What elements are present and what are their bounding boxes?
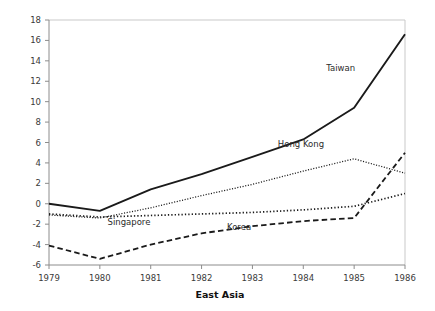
y-tick-label: 4	[36, 158, 41, 168]
series-label-korea: Korea	[227, 222, 251, 232]
y-tick-label: 12	[30, 76, 41, 86]
series-label-singapore: Singapore	[107, 217, 150, 227]
y-tick-label: 2	[36, 178, 41, 188]
x-tick-label: 1982	[191, 273, 213, 283]
series-line-taiwan	[49, 34, 405, 211]
y-tick-label: 6	[36, 138, 41, 148]
y-tick-label: 14	[30, 56, 41, 66]
y-tick-label: -6	[33, 260, 41, 270]
series-label-group: TaiwanHong KongSingaporeKorea	[107, 63, 355, 232]
chart-container: 181614121086420-2-4-6 197919801981198219…	[0, 0, 435, 311]
y-axis-ticks: 181614121086420-2-4-6	[30, 15, 49, 270]
y-tick-label: 18	[30, 15, 41, 25]
line-chart: 181614121086420-2-4-6 197919801981198219…	[0, 0, 435, 311]
x-tick-label: 1984	[292, 273, 314, 283]
series-label-taiwan: Taiwan	[325, 63, 355, 73]
x-axis-title: East Asia	[195, 289, 244, 300]
x-tick-label: 1983	[242, 273, 264, 283]
y-tick-label: 0	[36, 199, 41, 209]
y-tick-label: -2	[33, 219, 41, 229]
series-label-hong-kong: Hong Kong	[278, 139, 324, 149]
y-tick-label: -4	[33, 240, 41, 250]
x-tick-label: 1985	[343, 273, 365, 283]
x-axis-ticks: 19791980198119821983198419851986	[38, 265, 416, 283]
x-tick-label: 1979	[38, 273, 60, 283]
y-tick-label: 16	[30, 35, 41, 45]
series-line-singapore	[49, 194, 405, 217]
y-tick-label: 8	[36, 117, 41, 127]
x-tick-label: 1986	[394, 273, 416, 283]
y-tick-label: 10	[30, 97, 41, 107]
x-tick-label: 1980	[89, 273, 111, 283]
x-tick-label: 1981	[140, 273, 162, 283]
